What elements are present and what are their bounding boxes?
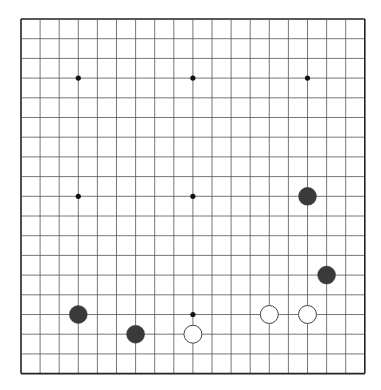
star-point [190,76,195,81]
go-board[interactable] [0,0,381,390]
star-point [76,76,81,81]
star-point [76,194,81,199]
white-stone[interactable] [184,325,202,343]
star-point [190,312,195,317]
black-stone[interactable] [69,306,87,324]
star-point [305,76,310,81]
stones-layer[interactable] [69,187,335,343]
black-stone[interactable] [318,266,336,284]
white-stone[interactable] [299,306,317,324]
star-point [190,194,195,199]
black-stone[interactable] [299,187,317,205]
black-stone[interactable] [127,325,145,343]
white-stone[interactable] [260,306,278,324]
